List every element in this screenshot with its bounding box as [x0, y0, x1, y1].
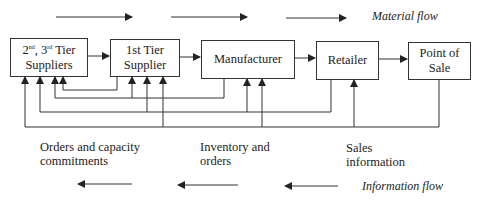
material-flow-label: Material flow: [372, 9, 438, 24]
material-flow-arrows: [56, 17, 346, 18]
node-tier23-suppliers: 2nd, 3rd Tier Suppliers: [10, 38, 88, 77]
info-line-tier1: [63, 76, 117, 90]
information-flow-arrows: [78, 184, 338, 186]
node-manufacturer: Manufacturer: [201, 40, 295, 79]
node-manufacturer-label: Manufacturer: [214, 52, 282, 67]
annotation-orders-capacity: Orders and capacity commitments: [40, 140, 140, 168]
node-pos-line1: Point of: [420, 46, 460, 61]
node-tier1-line1: 1st Tier: [124, 43, 166, 58]
node-tier23-line1: 2nd, 3rd Tier: [22, 43, 75, 58]
diagram-canvas: [0, 0, 481, 204]
information-flow-label: Information flow: [362, 179, 443, 194]
node-tier1-line2: Supplier: [124, 58, 166, 73]
info-line-retailer: [40, 77, 331, 112]
node-retailer-label: Retailer: [328, 53, 368, 68]
info-line-pos: [25, 77, 439, 127]
info-line-manufacturer: [55, 77, 224, 98]
node-point-of-sale: Point of Sale: [408, 42, 471, 80]
node-tier23-line2: Suppliers: [22, 58, 75, 73]
annotation-inventory-orders: Inventory and orders: [200, 140, 270, 168]
node-tier1-supplier: 1st Tier Supplier: [110, 39, 180, 77]
node-pos-line2: Sale: [420, 61, 460, 76]
annotation-sales-information: Sales information: [346, 141, 405, 169]
node-retailer: Retailer: [316, 41, 379, 80]
information-edges: [25, 76, 439, 127]
